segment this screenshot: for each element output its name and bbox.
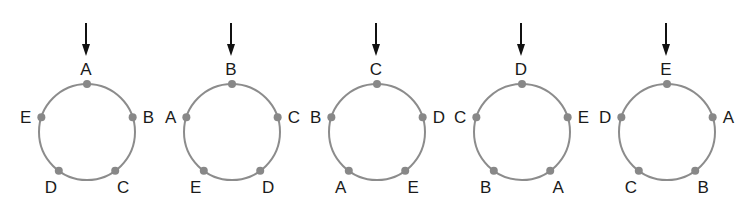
- point-dot: [401, 167, 409, 175]
- point-label: D: [262, 178, 274, 197]
- point-dot: [182, 113, 190, 121]
- ring-group: BCDEA: [165, 23, 300, 197]
- down-arrow-icon: [372, 23, 380, 56]
- point-label: B: [225, 60, 236, 79]
- point-label: A: [553, 178, 565, 197]
- point-label: D: [599, 108, 611, 127]
- down-arrow-icon: [517, 23, 525, 56]
- point-label: A: [723, 108, 735, 127]
- point-label: D: [433, 108, 445, 127]
- ring: [474, 84, 570, 180]
- down-arrow-icon: [662, 23, 670, 56]
- point-label: E: [20, 108, 31, 127]
- point-dot: [635, 167, 643, 175]
- ring: [39, 84, 135, 180]
- point-dot: [518, 80, 526, 88]
- point-dot: [228, 80, 236, 88]
- ring-group: CDEAB: [310, 23, 445, 197]
- point-dot: [111, 167, 119, 175]
- point-label: C: [117, 178, 129, 197]
- point-dot: [327, 113, 335, 121]
- point-dot: [490, 167, 498, 175]
- point-dot: [200, 167, 208, 175]
- point-dot: [472, 113, 480, 121]
- point-dot: [345, 167, 353, 175]
- point-label: A: [165, 108, 177, 127]
- point-label: A: [335, 178, 347, 197]
- ring-group: ABCDE: [20, 23, 154, 197]
- point-dot: [691, 167, 699, 175]
- point-label: C: [625, 178, 637, 197]
- point-label: E: [408, 178, 419, 197]
- point-label: D: [45, 178, 57, 197]
- point-label: E: [578, 108, 589, 127]
- point-dot: [546, 167, 554, 175]
- point-label: B: [310, 108, 321, 127]
- ring-group: DEABC: [454, 23, 589, 197]
- down-arrow-icon: [82, 23, 90, 56]
- point-dot: [83, 80, 91, 88]
- point-label: E: [660, 60, 671, 79]
- point-label: D: [515, 60, 527, 79]
- point-dot: [37, 113, 45, 121]
- ring-group: EABCD: [599, 23, 735, 197]
- point-dot: [419, 113, 427, 121]
- ring: [184, 84, 280, 180]
- point-label: C: [370, 60, 382, 79]
- rotation-diagram: ABCDEBCDEACDEABDEABCEABCD: [0, 0, 743, 203]
- point-dot: [373, 80, 381, 88]
- point-label: A: [80, 60, 92, 79]
- point-label: C: [454, 108, 466, 127]
- point-label: B: [698, 178, 709, 197]
- point-dot: [55, 167, 63, 175]
- point-dot: [256, 167, 264, 175]
- point-dot: [564, 113, 572, 121]
- point-label: E: [190, 178, 201, 197]
- point-dot: [663, 80, 671, 88]
- point-dot: [129, 113, 137, 121]
- point-label: B: [480, 178, 491, 197]
- point-dot: [709, 113, 717, 121]
- ring: [619, 84, 715, 180]
- point-dot: [617, 113, 625, 121]
- down-arrow-icon: [227, 23, 235, 56]
- ring: [329, 84, 425, 180]
- point-dot: [274, 113, 282, 121]
- point-label: B: [143, 108, 154, 127]
- point-label: C: [288, 108, 300, 127]
